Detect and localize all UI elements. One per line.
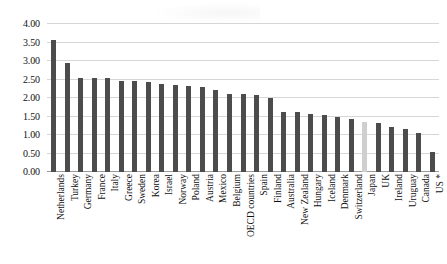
x-axis-tick-label: Korea	[152, 151, 162, 174]
x-axis-tick-label: US *	[436, 155, 446, 174]
x-axis-tick-label: Netherlands	[57, 128, 67, 174]
y-axis: 4.003.503.002.502.001.501.000.500.00	[0, 24, 44, 172]
x-axis-tick-label: Israel	[165, 153, 175, 174]
y-axis-tick-label: 3.00	[23, 56, 40, 66]
x-axis-tick-label: Japan	[368, 152, 378, 174]
x-axis-tick-label: Hungary	[314, 141, 324, 174]
x-axis-tick-label: Iceland	[328, 146, 338, 174]
x-axis-tick-label: Mexico	[219, 145, 229, 174]
y-axis-tick-label: 4.00	[23, 19, 40, 29]
x-axis-tick-label: Poland	[192, 148, 202, 174]
x-axis-tick-label: Denmark	[341, 139, 351, 174]
watermark-smudge	[150, 2, 260, 24]
y-axis-tick-label: 2.50	[23, 75, 40, 85]
x-axis-tick-label: France	[98, 148, 108, 174]
y-axis-tick-label: 1.00	[23, 130, 40, 140]
bar-chart: 4.003.503.002.502.001.501.000.500.00 Net…	[0, 0, 447, 264]
x-axis-tick-label: Sweden	[138, 144, 148, 174]
x-axis-tick-label: Australia	[287, 139, 297, 174]
y-axis-tick-label: 2.00	[23, 93, 40, 103]
x-axis-tick-label: Canada	[422, 146, 432, 175]
y-axis-tick-label: 0.00	[23, 167, 40, 177]
y-axis-tick-label: 1.50	[23, 112, 40, 122]
x-axis-tick-label: Norway	[179, 143, 189, 174]
x-axis-tick-label: Switzerland	[355, 129, 365, 174]
x-axis-tick-label: Belgium	[233, 141, 243, 174]
x-axis-tick-label: Spain	[260, 152, 270, 174]
x-axis-tick-label: Austria	[206, 146, 216, 174]
bar	[51, 40, 56, 172]
x-axis-tick-label: Ireland	[395, 147, 405, 174]
y-axis-tick-label: 3.50	[23, 38, 40, 48]
x-axis-tick-label: UK	[382, 160, 392, 174]
y-axis-tick-label: 0.50	[23, 149, 40, 159]
x-axis-tick-label: Italy	[111, 157, 121, 174]
x-axis-tick-label: OECD countries	[247, 111, 257, 174]
x-axis-tick-label: Uruguay	[409, 141, 419, 174]
x-axis-tick-label: Finland	[274, 145, 284, 174]
x-axis-tick-label: Greece	[125, 147, 135, 174]
x-axis-tick-label: Germany	[84, 139, 94, 174]
x-axis: NetherlandsTurkeyGermanyFranceItalyGreec…	[47, 174, 439, 262]
x-axis-tick-label: Turkey	[71, 147, 81, 174]
x-axis-tick-label: New Zealand	[301, 123, 311, 174]
